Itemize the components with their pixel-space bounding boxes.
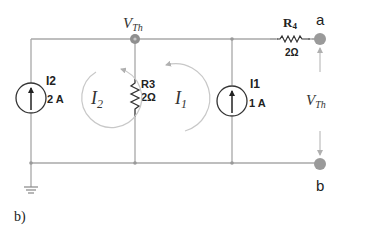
r3-name: R3 [141,78,155,90]
current-source-i1: I1 1 A [217,77,266,116]
junction-dot [133,161,137,165]
terminal-b-label: b [316,177,324,194]
junction-dot [230,161,234,165]
r4-name: R4 [283,15,297,31]
wires [31,39,320,187]
terminal-a [314,33,326,45]
circuit-diagram: VTh I2 2 A R3 2Ω I1 1 A R4 2Ω I2 I1 [0,0,374,227]
junction-dot [230,37,234,41]
mesh-current-i2-label: I2 [90,88,103,111]
mesh-arrow-i1 [166,64,210,131]
vth-output-label: VTh [306,92,326,110]
vth-node-label: VTh [123,15,143,33]
i1-name: I1 [250,77,260,91]
mesh-current-i1-label: I1 [174,88,187,111]
vth-node-inner [133,37,136,40]
terminal-b [314,158,326,170]
ground-icon [24,187,38,193]
current-source-i2: I2 2 A [16,74,64,113]
r3-value: 2Ω [141,91,156,103]
junction-dot [29,161,33,165]
i1-value: 1 A [249,97,266,109]
i2-value: 2 A [47,93,64,105]
terminal-a-label: a [316,11,325,28]
r4-value: 2Ω [285,47,299,58]
resistor-r3: R3 2Ω [131,78,156,117]
figure-caption: b) [14,209,26,225]
resistor-r4: R4 2Ω [270,15,320,58]
i2-name: I2 [46,74,56,88]
